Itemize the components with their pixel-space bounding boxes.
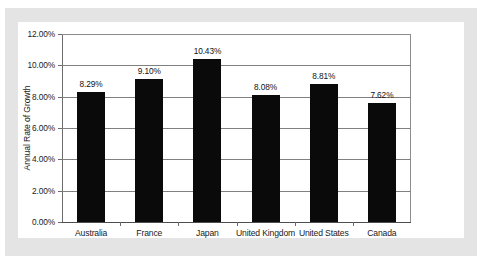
x-category-label: Australia [75,228,107,238]
gridline [62,159,411,160]
gridline [62,34,411,35]
x-tick-mark [353,222,354,226]
y-tick-label: 10.00% [27,60,55,70]
x-category-label: Canada [367,228,396,238]
y-tick-label: 12.00% [27,29,55,39]
y-tick-mark [58,222,62,223]
gridline [62,191,411,192]
bar-value-label: 9.10% [138,66,161,76]
y-tick-mark [58,128,62,129]
bar[interactable]: 8.08% [252,95,280,222]
bar-value-label: 8.29% [80,79,103,89]
bar[interactable]: 10.43% [193,59,221,222]
bar-value-label: 10.43% [194,46,222,56]
plot-area: 0.00%2.00%4.00%6.00%8.00%10.00%12.00% 8.… [62,34,411,222]
y-tick-label: 6.00% [32,123,55,133]
y-tick-mark [58,159,62,160]
bar[interactable]: 8.29% [77,92,105,222]
x-category-label: France [136,228,162,238]
x-category-label: United Kingdom [236,228,295,238]
y-tick-label: 4.00% [32,154,55,164]
x-tick-mark [120,222,121,226]
gridline [62,97,411,98]
gridline [62,65,411,66]
gridline [62,128,411,129]
y-tick-label: 2.00% [32,186,55,196]
y-tick-label: 0.00% [32,217,55,227]
y-tick-mark [58,191,62,192]
bar-value-label: 8.81% [312,71,335,81]
chart-figure: Annual Rate of Growth 0.00%2.00%4.00%6.0… [0,0,482,261]
bar[interactable]: 7.62% [368,103,396,222]
y-tick-mark [58,34,62,35]
x-tick-mark [237,222,238,226]
x-tick-mark [178,222,179,226]
bar[interactable]: 9.10% [135,79,163,222]
bar-value-label: 7.62% [370,90,393,100]
x-category-label: United States [299,228,349,238]
x-tick-mark [295,222,296,226]
bar-value-label: 8.08% [254,82,277,92]
y-tick-label: 8.00% [32,92,55,102]
bar[interactable]: 8.81% [310,84,338,222]
y-tick-mark [58,97,62,98]
y-axis-title-text: Annual Rate of Growth [22,86,32,171]
x-category-label: Japan [196,228,219,238]
chart-panel: Annual Rate of Growth 0.00%2.00%4.00%6.0… [18,22,464,238]
y-tick-mark [58,65,62,66]
